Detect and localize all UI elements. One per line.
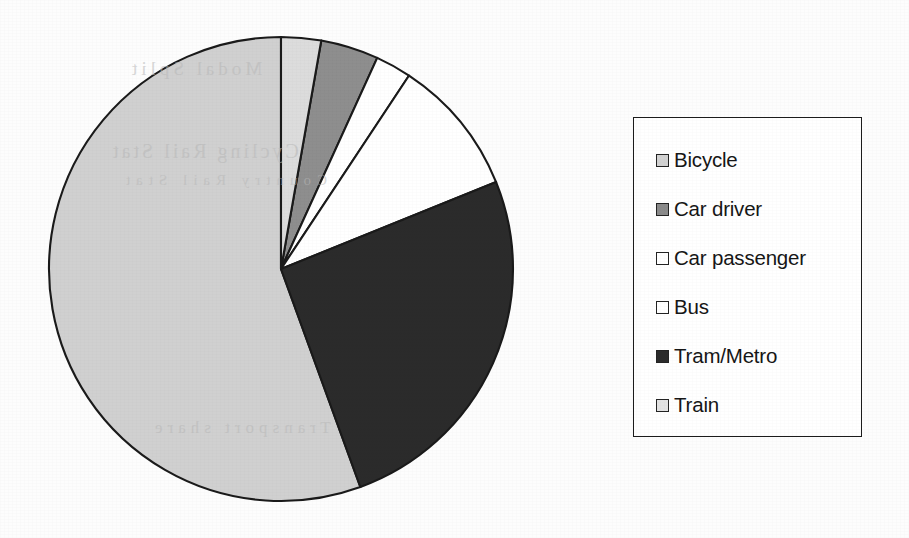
- pie-chart-svg: [0, 0, 580, 538]
- legend-swatch-bicycle: [656, 154, 669, 167]
- legend-swatch-car-driver: [656, 203, 669, 216]
- legend-label-tram-metro: Tram/Metro: [674, 346, 777, 367]
- pie-slice-group: [49, 37, 513, 501]
- legend-label-train: Train: [674, 395, 719, 416]
- legend-item-bicycle[interactable]: Bicycle: [656, 136, 861, 185]
- legend-swatch-bus: [656, 301, 669, 314]
- legend-item-bus[interactable]: Bus: [656, 283, 861, 332]
- legend-label-car-driver: Car driver: [674, 199, 762, 220]
- legend-label-bicycle: Bicycle: [674, 150, 738, 171]
- legend-item-train[interactable]: Train: [656, 381, 861, 430]
- chart-legend: Bicycle Car driver Car passenger Bus Tra…: [633, 117, 862, 437]
- legend-swatch-train: [656, 399, 669, 412]
- legend-item-car-passenger[interactable]: Car passenger: [656, 234, 861, 283]
- pie-chart-area: Modal Split Cycling Rail Stat Country Ra…: [0, 0, 580, 538]
- legend-label-car-passenger: Car passenger: [674, 248, 806, 269]
- legend-item-car-driver[interactable]: Car driver: [656, 185, 861, 234]
- legend-swatch-tram-metro: [656, 350, 669, 363]
- legend-label-bus: Bus: [674, 297, 709, 318]
- legend-swatch-car-passenger: [656, 252, 669, 265]
- legend-item-tram-metro[interactable]: Tram/Metro: [656, 332, 861, 381]
